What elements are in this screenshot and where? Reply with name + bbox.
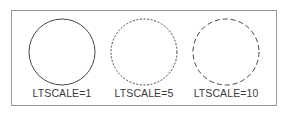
circle-dashed-coarse bbox=[182, 17, 270, 87]
circle-shape-continuous bbox=[29, 19, 95, 85]
caption-ltscale-1: LTSCALE=1 bbox=[18, 87, 106, 100]
panel-ltscale-5: LTSCALE=5 bbox=[100, 11, 188, 107]
figure-border: LTSCALE=1 LTSCALE=5 LTSCALE=10 bbox=[11, 10, 277, 106]
panel-ltscale-1: LTSCALE=1 bbox=[18, 11, 106, 107]
circle-continuous bbox=[18, 17, 106, 87]
caption-ltscale-5: LTSCALE=5 bbox=[100, 87, 188, 100]
circle-dashed-fine bbox=[100, 17, 188, 87]
circle-shape-dashed-fine bbox=[111, 19, 177, 85]
circle-shape-dashed-coarse bbox=[193, 19, 259, 85]
ltscale-figure: LTSCALE=1 LTSCALE=5 LTSCALE=10 bbox=[0, 0, 291, 118]
panel-ltscale-10: LTSCALE=10 bbox=[182, 11, 270, 107]
caption-ltscale-10: LTSCALE=10 bbox=[182, 87, 270, 100]
